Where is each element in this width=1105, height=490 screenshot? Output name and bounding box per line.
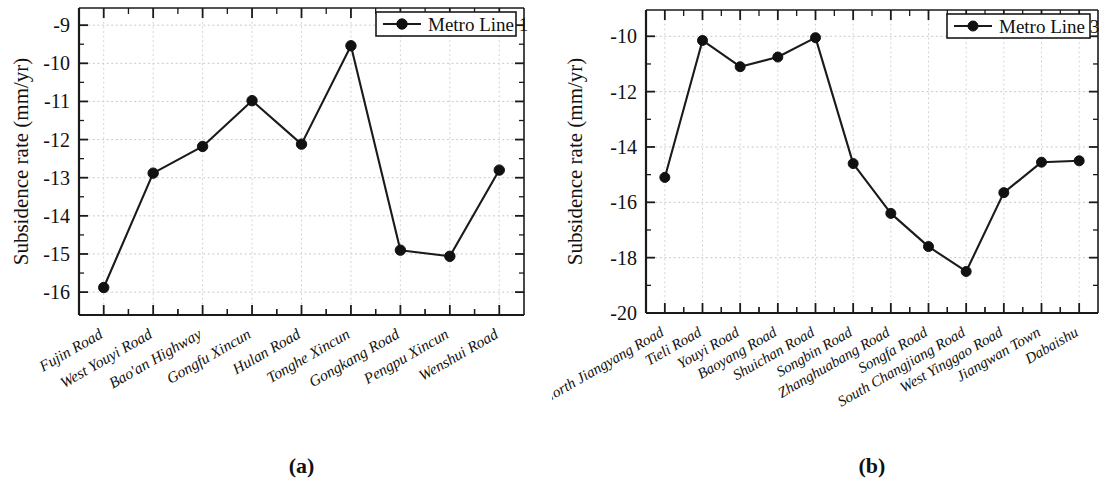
plot-frame (646, 10, 1098, 313)
gridlines-vertical (104, 8, 500, 315)
y-tick-label-3: -12 (43, 129, 70, 151)
data-point[interactable] (848, 159, 858, 169)
x-axis-ticks (665, 10, 1079, 313)
series-line-metro-line-3 (665, 38, 1079, 272)
data-point[interactable] (735, 62, 745, 72)
legend-marker (397, 19, 407, 29)
y-axis-title: Subsidence rate (mm/yr) (563, 58, 587, 266)
data-point[interactable] (773, 52, 783, 62)
data-point[interactable] (698, 35, 708, 45)
data-point[interactable] (494, 165, 504, 175)
y-tick-label-4: -13 (43, 167, 70, 189)
y-tick-label-6: -15 (43, 243, 70, 265)
data-point[interactable] (999, 188, 1009, 198)
legend-label: Metro Line 3 (999, 16, 1099, 37)
panel-caption: (b) (859, 453, 886, 478)
chart-panel-a: -9-10-11-12-13-14-15-16Fujin RoadWest Yo… (0, 0, 553, 490)
y-tick-label-5: -20 (610, 302, 637, 324)
panel-caption: (a) (289, 453, 315, 478)
legend-marker (968, 21, 978, 31)
y-tick-label-2: -14 (610, 136, 637, 158)
data-point[interactable] (197, 141, 207, 151)
y-tick-label-1: -12 (610, 81, 637, 103)
gridlines-horizontal (646, 36, 1098, 313)
data-point[interactable] (346, 41, 356, 51)
y-tick-label-4: -18 (610, 247, 637, 269)
chart-svg: -9-10-11-12-13-14-15-16Fujin RoadWest Yo… (0, 0, 553, 490)
data-point[interactable] (395, 245, 405, 255)
y-tick-label-5: -14 (43, 205, 70, 227)
data-point[interactable] (924, 242, 934, 252)
x-tick-labels: Fujin RoadWest Youyi RoadBao'an HighwayG… (35, 325, 501, 392)
data-point[interactable] (660, 172, 670, 182)
legend-label: Metro Line 1 (428, 14, 528, 35)
data-point[interactable] (1037, 157, 1047, 167)
y-tick-label-0: -10 (610, 25, 637, 47)
y-tick-label-3: -16 (610, 191, 637, 213)
data-point[interactable] (445, 251, 455, 261)
data-point[interactable] (886, 208, 896, 218)
y-tick-label-7: -16 (43, 281, 70, 303)
data-point[interactable] (247, 95, 257, 105)
chart-legend: Metro Line 1 (376, 12, 528, 36)
y-axis-title: Subsidence rate (mm/yr) (9, 58, 33, 266)
data-point[interactable] (148, 168, 158, 178)
gridlines-vertical (665, 10, 1079, 313)
y-tick-label-0: -9 (53, 14, 70, 36)
data-point[interactable] (961, 266, 971, 276)
data-point[interactable] (1074, 156, 1084, 166)
chart-panel-b: -10-12-14-16-18-20North Jiangyang RoadTi… (552, 0, 1105, 490)
figure-root: -9-10-11-12-13-14-15-16Fujin RoadWest Yo… (0, 0, 1105, 490)
data-point[interactable] (811, 33, 821, 43)
data-point[interactable] (99, 282, 109, 292)
data-point[interactable] (296, 139, 306, 149)
y-tick-label-2: -11 (44, 90, 70, 112)
chart-svg: -10-12-14-16-18-20North Jiangyang RoadTi… (552, 0, 1105, 490)
series-markers (660, 33, 1084, 277)
chart-legend: Metro Line 3 (947, 14, 1099, 38)
y-tick-label-1: -10 (43, 52, 70, 74)
x-tick-labels: North Jiangyang RoadTieli RoadYouyi Road… (552, 323, 1081, 409)
